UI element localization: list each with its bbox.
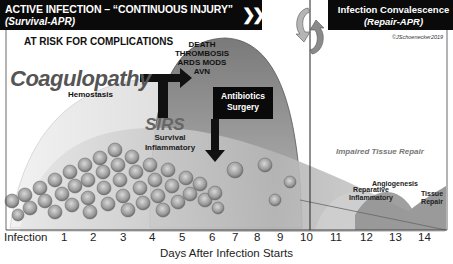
sirs-label: SIRS [145,115,185,135]
reparative-inflammatory-label: Reparative Inflammatory [340,186,402,202]
copyright: ©JSchoenecker2019 [392,34,443,40]
complications-list: DEATH THROMBOSIS ARDS MODS AVN [166,40,238,76]
x-tick-2: 2 [90,231,96,243]
x-tick-13: 13 [389,231,402,243]
inflammatory-label: Inflammatory [138,143,202,153]
tissue-repair-label: Tissue Repair [414,190,450,206]
chevrons-icon: ❯❯❯ [242,5,272,24]
surgery-label: Surgery [213,102,273,113]
x-tick-12: 12 [360,231,373,243]
x-tick-9: 9 [277,231,283,243]
x-tick-1: 1 [61,231,67,243]
inflammatory-word: Inflammatory [340,194,402,202]
impaired-repair-label: Impaired Tissue Repair [336,147,424,156]
angiogenesis-label: Angiogenesis [372,180,418,187]
x-tick-14: 14 [418,231,431,243]
x-tick-0: Infection [4,231,47,243]
complication-thrombosis: THROMBOSIS [166,49,238,58]
antibiotics-label: Antibiotics [213,91,273,102]
x-tick-10: 10 [300,231,313,243]
x-tick-11: 11 [330,231,342,243]
x-tick-3: 3 [120,231,126,243]
active-infection-title: ACTIVE INFECTION – “CONTINUOUS INJURY” [5,3,233,15]
x-tick-6: 6 [209,231,215,243]
x-tick-8: 8 [254,231,260,243]
antibiotics-surgery-box: Antibiotics Surgery [213,87,273,119]
complication-ards-mods: ARDS MODS [166,58,238,67]
active-infection-subtitle: (Survival-APR) [5,16,75,27]
cycle-arrows-icon [290,2,330,60]
at-risk-heading: AT RISK FOR COMPLICATIONS [24,36,173,47]
convalescence-subtitle: (Repair-APR) [336,16,451,27]
coagulopathy-label: Coagulopathy [10,66,151,92]
x-axis-label: Days After Infection Starts [0,247,453,259]
repair-word: Repair [414,198,450,206]
convalescence-title: Infection Convalescence [336,4,451,15]
sirs-sublabel: Survival Inflammatory [138,133,202,153]
x-tick-7: 7 [232,231,238,243]
x-tick-5: 5 [179,231,185,243]
tissue-word: Tissue [414,190,450,198]
complication-death: DEATH [166,40,238,49]
reparative-word: Reparative [340,186,402,194]
hemostasis-label: Hemostasis [68,90,113,99]
complication-avn: AVN [166,67,238,76]
survival-label: Survival [138,133,202,143]
x-tick-4: 4 [149,231,155,243]
